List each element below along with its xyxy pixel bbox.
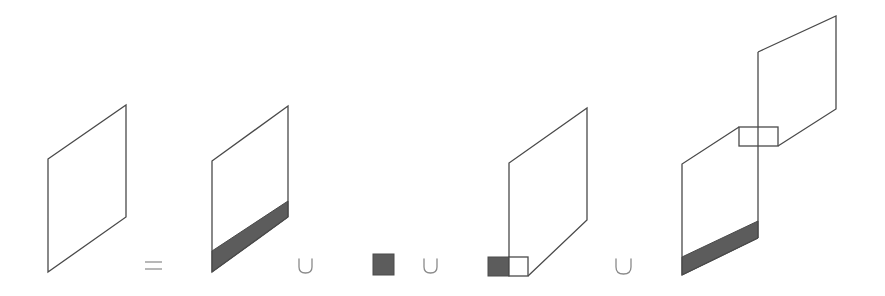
- union-symbol-1: [299, 259, 312, 273]
- union-symbol-3: [616, 259, 631, 274]
- whole-parallelogram: [48, 105, 126, 272]
- term-2-shaded-square: [373, 254, 394, 275]
- corner-shaded-half: [488, 257, 509, 276]
- term-3-parallelogram-with-corner-rect: [488, 108, 587, 276]
- shaded-band: [212, 201, 288, 272]
- term-1-shaded-band-parallelogram: [212, 106, 288, 272]
- union-symbol-2: [424, 259, 437, 273]
- corner-white-half: [509, 257, 528, 276]
- equals-sign: [145, 262, 162, 269]
- set-decomposition-diagram: [0, 0, 885, 296]
- lower-shaded-band: [682, 221, 758, 275]
- term-4-offset-parallelograms: [682, 16, 836, 275]
